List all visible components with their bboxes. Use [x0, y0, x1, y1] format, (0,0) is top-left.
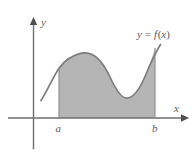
function-label-equals: = [145, 28, 151, 40]
y-axis-arrowhead-icon [30, 17, 37, 25]
bound-label-a: a [56, 122, 62, 134]
svg-text:y=f(x): y=f(x) [136, 28, 170, 41]
area-under-curve-diagram: y x a b y=f(x) [0, 0, 195, 153]
shaded-area-region [59, 48, 155, 118]
x-axis-arrowhead-icon [181, 114, 189, 122]
x-axis-label: x [173, 102, 179, 114]
figure-container: y x a b y=f(x) [0, 0, 195, 153]
bound-label-b: b [152, 122, 158, 134]
function-label: y=f(x) [136, 28, 170, 41]
y-axis-label: y [40, 16, 46, 28]
function-label-close-paren: ) [166, 28, 170, 41]
function-label-y: y [136, 28, 142, 40]
